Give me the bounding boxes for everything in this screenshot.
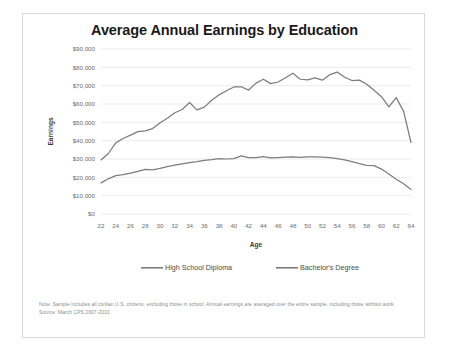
y-axis-tick-label: $50,000 xyxy=(73,119,96,126)
chart-footnote: Note: Sample includes all civilian U.S. … xyxy=(39,301,411,316)
earnings-line-chart: $0$10,000$20,000$30,000$40,000$50,000$60… xyxy=(23,42,426,300)
x-axis-tick-label: 24 xyxy=(112,222,119,229)
y-axis-tick-label: $30,000 xyxy=(73,155,96,162)
legend-label-1: Bachelor's Degree xyxy=(300,263,359,272)
x-axis-tick-label: 48 xyxy=(289,222,296,229)
y-axis-tick-label: $40,000 xyxy=(73,137,96,144)
x-axis-tick-label: 40 xyxy=(230,222,237,229)
x-axis-tick-label: 60 xyxy=(378,222,385,229)
x-axis-tick-label: 56 xyxy=(349,222,356,229)
x-axis-tick-label: 62 xyxy=(393,222,400,229)
x-axis-title: Age xyxy=(250,241,263,249)
x-axis-tick-label: 38 xyxy=(216,222,223,229)
chart-title: Average Annual Earnings by Education xyxy=(23,22,426,38)
x-axis-tick-label: 54 xyxy=(334,222,341,229)
x-axis-tick-label: 44 xyxy=(260,222,267,229)
legend-label-0: High School Diploma xyxy=(165,263,232,272)
y-axis-tick-label: $10,000 xyxy=(73,192,96,199)
x-axis-tick-label: 28 xyxy=(142,222,149,229)
x-axis-tick-label: 22 xyxy=(98,222,105,229)
series-line-high-school-diploma xyxy=(101,156,411,190)
chart-card: Average Annual Earnings by Education $0$… xyxy=(22,13,425,338)
series-line-bachelors-degree xyxy=(101,72,411,160)
y-axis-tick-label: $80,000 xyxy=(73,64,96,71)
x-axis-tick-label: 42 xyxy=(245,222,252,229)
y-axis-tick-label: $20,000 xyxy=(73,174,96,181)
x-axis-tick-label: 36 xyxy=(201,222,208,229)
x-axis-tick-label: 34 xyxy=(186,222,193,229)
x-axis-tick-label: 64 xyxy=(408,222,415,229)
x-axis-tick-label: 52 xyxy=(319,222,326,229)
x-axis-tick-label: 58 xyxy=(363,222,370,229)
y-axis-title: Earnings xyxy=(47,117,55,146)
y-axis-tick-label: $0 xyxy=(88,210,95,217)
y-axis-tick-label: $90,000 xyxy=(73,45,96,52)
x-axis-tick-label: 32 xyxy=(171,222,178,229)
x-axis-tick-label: 46 xyxy=(275,222,282,229)
y-axis-tick-label: $60,000 xyxy=(73,100,96,107)
x-axis-tick-label: 30 xyxy=(157,222,164,229)
y-axis-tick-label: $70,000 xyxy=(73,82,96,89)
x-axis-tick-label: 26 xyxy=(127,222,134,229)
x-axis-tick-label: 50 xyxy=(304,222,311,229)
